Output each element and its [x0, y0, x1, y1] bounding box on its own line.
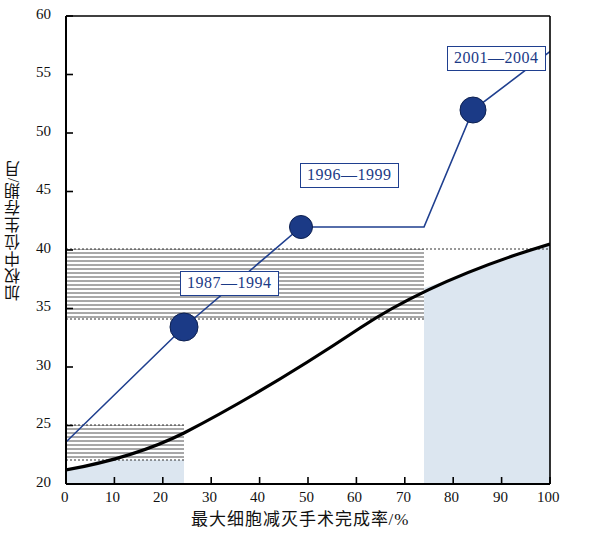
- data-point-1987-1994[interactable]: [170, 313, 198, 341]
- chart-root: 加权中位生存期/月 最大细胞减灭手术完成率/%: [0, 0, 600, 535]
- y-tick-label-40: 40: [36, 240, 51, 257]
- data-point-2001-2004[interactable]: [460, 97, 486, 123]
- x-tick-label-20: 20: [153, 489, 168, 506]
- y-tick-label-45: 45: [36, 181, 51, 198]
- chart-svg: [0, 0, 600, 535]
- y-tick-label-35: 35: [36, 298, 51, 315]
- x-tick-label-100: 100: [537, 489, 560, 506]
- y-tick-label-50: 50: [36, 123, 51, 140]
- y-tick-label-60: 60: [36, 6, 51, 23]
- x-tick-label-0: 0: [61, 489, 69, 506]
- annotation-1987-1994: 1987—1994: [180, 271, 279, 296]
- y-tick-label-20: 20: [36, 474, 51, 491]
- x-tick-label-50: 50: [299, 489, 314, 506]
- y-tick-label-25: 25: [36, 415, 51, 432]
- x-tick-label-30: 30: [202, 489, 217, 506]
- x-tick-label-40: 40: [250, 489, 265, 506]
- y-tick-label-30: 30: [36, 357, 51, 374]
- x-tick-label-10: 10: [105, 489, 120, 506]
- x-tick-label-80: 80: [444, 489, 459, 506]
- y-tick-label-55: 55: [36, 64, 51, 81]
- annotation-1996-1999: 1996—1999: [300, 163, 399, 188]
- x-tick-label-60: 60: [347, 489, 362, 506]
- x-tick-label-70: 70: [396, 489, 411, 506]
- data-point-1996-1999[interactable]: [290, 216, 313, 239]
- x-tick-label-90: 90: [493, 489, 508, 506]
- annotation-2001-2004: 2001—2004: [447, 46, 546, 71]
